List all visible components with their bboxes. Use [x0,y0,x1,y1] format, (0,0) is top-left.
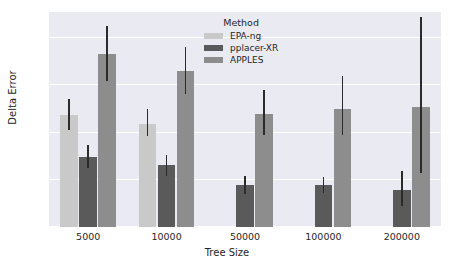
x-tick-label: 200000 [384,231,420,242]
legend-item-label: EPA-ng [230,31,261,41]
error-bar [106,26,108,82]
bar [177,71,195,227]
error-bar [68,99,70,130]
error-bar [420,17,422,173]
legend-swatch-icon [204,45,223,51]
error-bar [166,155,168,177]
legend-item[interactable]: pplacer-XR [204,43,278,53]
error-bar [401,171,403,205]
legend-item[interactable]: EPA-ng [204,31,278,41]
error-bar [147,109,149,136]
bar [60,115,78,227]
x-axis-label: Tree Size [0,247,454,258]
bar [139,124,157,227]
legend-title: Method [204,17,278,28]
legend: Method EPA-ngpplacer-XRAPPLES [198,14,284,71]
error-bar [185,47,187,94]
legend-swatch-icon [204,57,223,63]
error-bar [323,177,325,193]
legend-item[interactable]: APPLES [204,55,278,65]
x-tick-label: 10000 [151,231,181,242]
y-axis-label: Delta Error [7,38,18,158]
x-tick-label: 5000 [76,231,100,242]
x-tick-label: 100000 [305,231,341,242]
legend-item-label: APPLES [230,55,263,65]
legend-swatch-icon [204,33,223,39]
x-tick-label: 50000 [230,231,260,242]
error-bar [87,145,89,168]
error-bar [342,76,344,136]
error-bar [263,90,265,136]
legend-item-label: pplacer-XR [230,43,278,53]
legend-items: EPA-ngpplacer-XRAPPLES [204,31,278,65]
error-bar [244,176,246,193]
bar-chart-figure: 0.00.10.20.30.4 500010000500001000002000… [0,0,454,267]
